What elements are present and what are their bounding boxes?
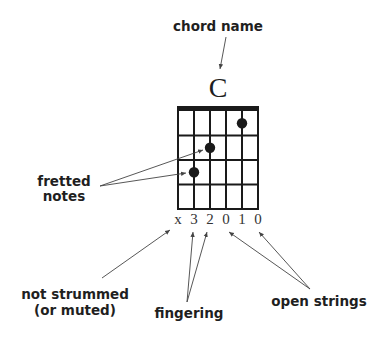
fretted-notes-arrow-1 — [100, 150, 203, 186]
nut — [177, 106, 259, 111]
fingering-row: x32010 — [174, 211, 262, 227]
fingering-value: x — [174, 211, 182, 227]
fretted-notes-label-line2: notes — [43, 188, 86, 204]
chord-name-label: chord name — [173, 18, 263, 34]
fretted-note-dot — [205, 143, 215, 153]
not-strummed-arrow — [102, 230, 170, 278]
fretted-notes-label-line1: fretted — [37, 173, 90, 189]
fingering-label: fingering — [155, 305, 224, 321]
open-strings-arrow-1 — [229, 232, 310, 289]
fingering-value: 3 — [190, 211, 198, 227]
fretted-note-dot — [237, 118, 247, 128]
open-strings-arrow-2 — [259, 232, 310, 289]
open-strings-label: open strings — [271, 293, 367, 309]
chord-name: C — [209, 72, 228, 103]
fretboard — [177, 106, 259, 210]
fretted-note-dot — [189, 167, 199, 177]
fingering-value: 0 — [254, 211, 262, 227]
not-strummed-label-line2: (or muted) — [34, 302, 116, 318]
fingering-value: 0 — [222, 211, 230, 227]
chord-diagram: chord name C fretted notes x32010 not st… — [0, 0, 390, 340]
fingering-value: 2 — [206, 211, 214, 227]
fretted-dots — [189, 118, 247, 177]
fretted-notes-arrow-2 — [100, 173, 186, 186]
not-strummed-label-line1: not strummed — [21, 286, 129, 302]
chord-name-arrow — [220, 37, 226, 69]
fingering-value: 1 — [238, 211, 246, 227]
